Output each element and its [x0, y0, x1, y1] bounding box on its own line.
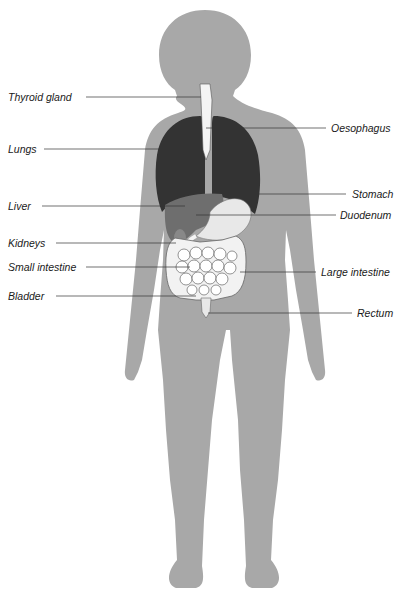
label-duodenum: Duodenum: [340, 209, 391, 221]
label-kidneys: Kidneys: [8, 237, 45, 249]
label-rectum: Rectum: [357, 307, 393, 319]
label-small-intestine: Small intestine: [8, 261, 76, 273]
label-liver: Liver: [8, 200, 31, 212]
label-bladder: Bladder: [8, 290, 44, 302]
label-stomach: Stomach: [352, 188, 393, 200]
label-thyroid-gland: Thyroid gland: [8, 91, 72, 103]
label-oesophagus: Oesophagus: [331, 122, 391, 134]
label-lungs: Lungs: [8, 143, 37, 155]
label-large-intestine: Large intestine: [321, 266, 390, 278]
